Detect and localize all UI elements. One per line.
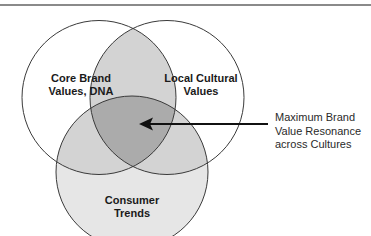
- core-label-line-1: Core Brand: [40, 72, 122, 85]
- callout-line-1: Maximum Brand: [275, 111, 361, 125]
- local-label-line-1: Local Cultural: [158, 72, 244, 85]
- callout-line-3: across Cultures: [275, 138, 361, 152]
- local-cultural-label: Local Cultural Values: [158, 72, 244, 98]
- consumer-label-line-2: Trends: [92, 207, 172, 220]
- callout-text: Maximum Brand Value Resonance across Cul…: [275, 111, 361, 152]
- consumer-trends-label: Consumer Trends: [92, 194, 172, 220]
- core-label-line-2: Values, DNA: [40, 85, 122, 98]
- callout-line-2: Value Resonance: [275, 125, 361, 139]
- local-label-line-2: Values: [158, 85, 244, 98]
- core-brand-label: Core Brand Values, DNA: [40, 72, 122, 98]
- consumer-label-line-1: Consumer: [92, 194, 172, 207]
